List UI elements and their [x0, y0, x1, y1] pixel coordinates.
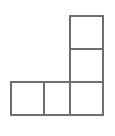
cell-bottom-right: [70, 82, 103, 115]
cell-bottom-mid: [44, 82, 70, 115]
cell-bottom-left: [11, 82, 44, 115]
cell-top-right: [70, 16, 103, 49]
figure-canvas: [0, 0, 115, 136]
cell-middle-right: [70, 49, 103, 82]
polyomino-figure: [0, 0, 115, 136]
